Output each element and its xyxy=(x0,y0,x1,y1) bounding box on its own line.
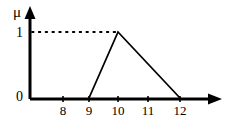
y-tick-label-1: 1 xyxy=(16,26,23,40)
y-tick-label-0: 0 xyxy=(16,90,23,104)
x-tick-label-9: 9 xyxy=(86,104,93,117)
x-tick-label-10: 10 xyxy=(112,104,125,117)
x-axis-arrow-icon xyxy=(208,94,222,105)
membership-function-line xyxy=(89,32,180,98)
x-tick-label-8: 8 xyxy=(60,104,67,117)
x-tick-label-12: 12 xyxy=(174,104,187,117)
fuzzy-membership-chart: μ 1 0 8 9 10 11 12 xyxy=(0,0,239,124)
x-tick-label-11: 11 xyxy=(142,104,155,117)
y-axis-arrow-icon xyxy=(25,6,36,19)
y-axis-title: μ xyxy=(13,5,21,20)
